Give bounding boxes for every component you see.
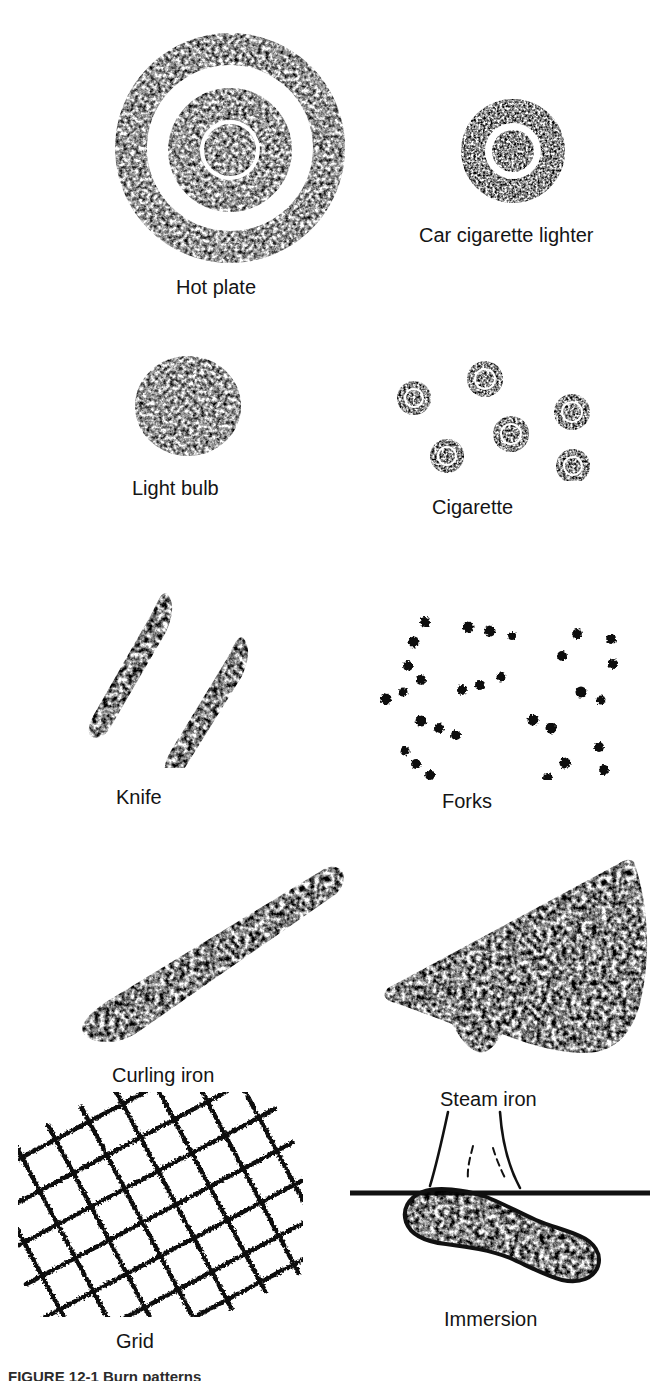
forks-illustration [370, 600, 635, 780]
steam-iron-illustration [382, 856, 662, 1061]
forks-label: Forks [442, 790, 492, 812]
cigarette-label: Cigarette [432, 496, 513, 518]
steam-iron-label: Steam iron [440, 1088, 537, 1110]
immersion-illustration [350, 1110, 650, 1295]
knife-label: Knife [116, 786, 162, 808]
cigarette-illustration [392, 356, 607, 481]
curling-iron-illustration [80, 862, 350, 1047]
grid-illustration [18, 1092, 303, 1317]
light-bulb-label: Light bulb [132, 477, 219, 499]
curling-iron-label: Curling iron [112, 1064, 214, 1086]
immersion-label: Immersion [444, 1308, 537, 1330]
car-cigarette-lighter-label: Car cigarette lighter [419, 224, 594, 246]
car-cigarette-lighter-illustration [443, 96, 583, 206]
figure-caption: FIGURE 12-1 Burn patterns [8, 1368, 201, 1381]
hot-plate-illustration [85, 28, 375, 268]
grid-label: Grid [116, 1330, 154, 1352]
light-bulb-illustration [128, 352, 248, 460]
hot-plate-label: Hot plate [176, 276, 256, 298]
burn-pattern-figure: Hot plate Car cigarette lighter Light bu… [0, 0, 663, 1381]
knife-illustration [88, 588, 328, 768]
